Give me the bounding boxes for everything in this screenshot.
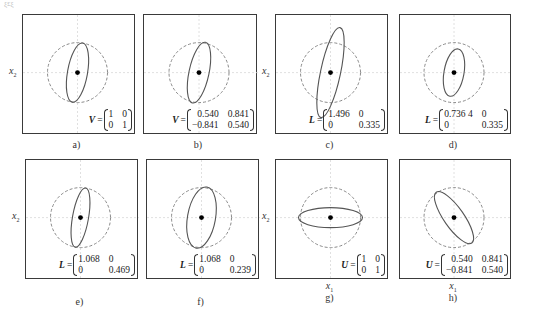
- matrix-cell: 0.841: [228, 109, 249, 120]
- panel-caption-a: a): [57, 139, 97, 150]
- y-axis-label: x2: [9, 65, 16, 78]
- matrix-cell: 0.335: [359, 120, 380, 131]
- right-bracket: [128, 109, 132, 131]
- matrix-cell: 0.239: [230, 265, 251, 276]
- center-dot: [452, 70, 457, 75]
- matrix-v: V=0.5400.841−0.8410.540: [172, 109, 254, 131]
- panel-caption-g: g): [310, 292, 350, 303]
- panel-b: V=0.5400.841−0.8410.540: [143, 14, 257, 134]
- matrix-symbol: L: [309, 115, 315, 126]
- panel-caption-c: c): [310, 139, 350, 150]
- center-dot: [78, 215, 83, 220]
- y-axis-label: x2: [262, 210, 269, 223]
- panel-caption-b: b): [178, 139, 218, 150]
- equals-sign: =: [317, 115, 322, 126]
- center-dot: [75, 70, 80, 75]
- panel-g: U=1001: [275, 159, 388, 279]
- matrix-cell: 1.496: [328, 109, 349, 120]
- matrix-cell: 1: [122, 120, 127, 131]
- panel-caption-h: h): [433, 292, 473, 303]
- matrix-symbol: U: [341, 260, 348, 271]
- center-dot: [328, 215, 333, 220]
- matrix-cell: 1: [362, 254, 367, 265]
- matrix-cell: 0.540: [482, 265, 503, 276]
- matrix-symbol: L: [180, 260, 186, 271]
- matrix-cell: 0: [230, 254, 251, 265]
- panel-f: L=1.068000.239: [146, 159, 259, 279]
- matrix-cell: 0: [199, 265, 220, 276]
- right-bracket: [250, 109, 254, 131]
- matrix-values: 1.496000.335: [327, 109, 381, 131]
- panel-c: L=1.496000.335: [275, 14, 388, 134]
- matrix-cell: 0: [122, 109, 127, 120]
- matrix-cell: 0: [444, 120, 473, 131]
- matrix-cell: 0: [78, 265, 99, 276]
- matrix-cell: −0.841: [192, 120, 219, 131]
- matrix-u: U=0.5400.841−0.8410.540: [426, 254, 508, 276]
- y-axis-label: x2: [12, 210, 19, 223]
- right-bracket: [252, 254, 256, 276]
- matrix-symbol: V: [172, 115, 178, 126]
- matrix-v: V=1001: [89, 109, 132, 131]
- panel-caption-e: e): [60, 296, 100, 307]
- panel-e: L=1.068000.469: [25, 159, 138, 279]
- right-bracket: [381, 109, 385, 131]
- y-axis-label: x2: [262, 65, 269, 78]
- matrix-cell: 0: [362, 265, 367, 276]
- matrix-cell: 0: [375, 254, 380, 265]
- panel-a: V=1001: [22, 14, 135, 134]
- equals-sign: =: [67, 260, 72, 271]
- matrix-cell: 1.068: [78, 254, 99, 265]
- corner-text: ξ£ξ: [4, 0, 14, 8]
- matrix-values: 1.068000.469: [77, 254, 131, 276]
- matrix-cell: 1: [375, 265, 380, 276]
- equals-sign: =: [433, 115, 438, 126]
- matrix-symbol: L: [59, 260, 65, 271]
- matrix-cell: 0.335: [482, 120, 503, 131]
- matrix-cell: 0.469: [109, 265, 130, 276]
- panel-caption-f: f): [181, 296, 221, 307]
- equals-sign: =: [181, 115, 186, 126]
- matrix-values: 1.068000.239: [198, 254, 252, 276]
- matrix-cell: 0.540: [228, 120, 249, 131]
- matrix-cell: −0.841: [446, 265, 473, 276]
- right-bracket: [504, 109, 508, 131]
- panel-d: L=0.736 4000.335: [399, 14, 511, 134]
- matrix-cell: 0: [328, 120, 349, 131]
- matrix-values: 1001: [108, 109, 129, 131]
- matrix-cell: 0.841: [482, 254, 503, 265]
- right-bracket: [504, 254, 508, 276]
- equals-sign: =: [350, 260, 355, 271]
- center-dot: [199, 215, 204, 220]
- equals-sign: =: [435, 260, 440, 271]
- equals-sign: =: [97, 115, 102, 126]
- matrix-symbol: V: [89, 115, 95, 126]
- matrix-cell: 0.540: [192, 109, 219, 120]
- matrix-symbol: U: [426, 260, 433, 271]
- right-bracket: [131, 254, 135, 276]
- matrix-u: U=1001: [341, 254, 385, 276]
- right-bracket: [381, 254, 385, 276]
- matrix-cell: 0: [359, 109, 380, 120]
- center-dot: [328, 70, 333, 75]
- panel-caption-d: d): [433, 139, 473, 150]
- matrix-values: 0.5400.841−0.8410.540: [445, 254, 504, 276]
- matrix-l: L=0.736 4000.335: [425, 109, 508, 131]
- matrix-symbol: L: [425, 115, 431, 126]
- matrix-cell: 0.540: [446, 254, 473, 265]
- matrix-cell: 0: [109, 120, 114, 131]
- equals-sign: =: [188, 260, 193, 271]
- matrix-cell: 1: [109, 109, 114, 120]
- matrix-cell: 0: [109, 254, 130, 265]
- matrix-cell: 1.068: [199, 254, 220, 265]
- matrix-cell: 0: [482, 109, 503, 120]
- matrix-values: 0.5400.841−0.8410.540: [191, 109, 250, 131]
- panel-h: U=0.5400.841−0.8410.540: [399, 159, 511, 279]
- matrix-values: 0.736 4000.335: [443, 109, 504, 131]
- center-dot: [197, 70, 202, 75]
- matrix-l: L=1.068000.469: [59, 254, 135, 276]
- matrix-cell: 0.736 4: [444, 109, 473, 120]
- matrix-l: L=1.496000.335: [309, 109, 385, 131]
- matrix-l: L=1.068000.239: [180, 254, 256, 276]
- center-dot: [452, 215, 457, 220]
